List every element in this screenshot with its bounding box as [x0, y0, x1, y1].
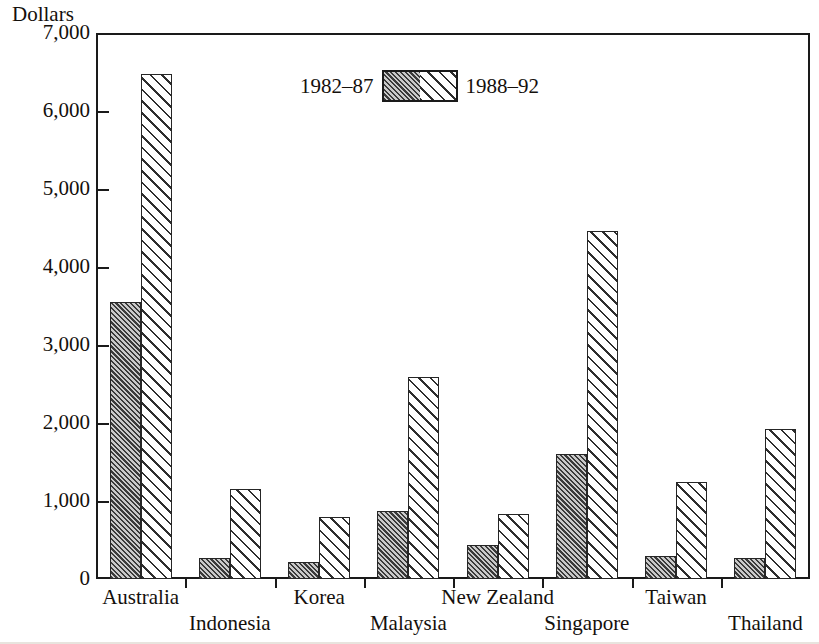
bar-korea-series-1: [319, 517, 350, 579]
legend-swatch: [382, 70, 458, 102]
bar-indonesia-series-1: [230, 489, 261, 579]
bar-chart: Dollars 01,0002,0003,0004,0005,0006,0007…: [0, 0, 819, 644]
y-axis-tick-mark: [96, 189, 109, 191]
y-axis-tick-mark: [96, 267, 109, 269]
legend: 1982–87 1988–92: [300, 68, 539, 104]
bar-new-zealand-series-0: [467, 545, 498, 579]
x-axis-category-label: Australia: [102, 586, 179, 609]
y-axis-tick-label: 3,000: [4, 334, 90, 355]
bar-singapore-series-0: [556, 454, 587, 579]
y-axis-tick-label: 2,000: [4, 412, 90, 433]
bar-malaysia-series-1: [408, 377, 439, 579]
x-axis-tick-mark: [185, 579, 187, 588]
y-axis-tick-label: 4,000: [4, 256, 90, 277]
y-axis-tick-labels: 01,0002,0003,0004,0005,0006,0007,000: [0, 0, 90, 644]
legend-label-1982-87: 1982–87: [300, 74, 374, 99]
y-axis-tick-label: 0: [4, 568, 90, 589]
x-axis-category-label: Singapore: [544, 612, 629, 635]
y-axis-tick-mark: [96, 111, 109, 113]
legend-label-1988-92: 1988–92: [466, 74, 540, 99]
y-axis-tick-mark: [96, 423, 109, 425]
y-axis-tick-label: 5,000: [4, 178, 90, 199]
x-axis-tick-mark: [721, 579, 723, 588]
x-axis-tick-mark: [275, 579, 277, 588]
x-axis-category-label: New Zealand: [441, 586, 554, 609]
bar-thailand-series-1: [765, 429, 796, 579]
x-axis-category-label: Thailand: [728, 612, 803, 635]
bar-taiwan-series-0: [645, 556, 676, 579]
x-axis-category-label: Taiwan: [645, 586, 707, 609]
bar-malaysia-series-0: [377, 511, 408, 579]
x-axis-category-label: Korea: [293, 586, 344, 609]
bar-new-zealand-series-1: [498, 514, 529, 579]
bar-taiwan-series-1: [676, 482, 707, 580]
bar-indonesia-series-0: [199, 558, 230, 579]
bar-australia-series-0: [110, 302, 141, 579]
x-axis-tick-mark: [364, 579, 366, 588]
bar-australia-series-1: [141, 74, 172, 579]
legend-swatch-series-0: [384, 72, 420, 100]
bar-thailand-series-0: [734, 558, 765, 579]
bar-korea-series-0: [288, 562, 319, 579]
legend-swatch-series-1: [420, 72, 456, 100]
bar-singapore-series-1: [587, 231, 618, 579]
x-axis-category-label: Malaysia: [370, 612, 447, 635]
y-axis-tick-mark: [96, 501, 109, 503]
y-axis-tick-label: 7,000: [4, 22, 90, 43]
x-axis-category-label: Indonesia: [189, 612, 271, 635]
y-axis-tick-label: 1,000: [4, 490, 90, 511]
x-axis-tick-mark: [632, 579, 634, 588]
y-axis-tick-mark: [96, 345, 109, 347]
y-axis-tick-label: 6,000: [4, 100, 90, 121]
